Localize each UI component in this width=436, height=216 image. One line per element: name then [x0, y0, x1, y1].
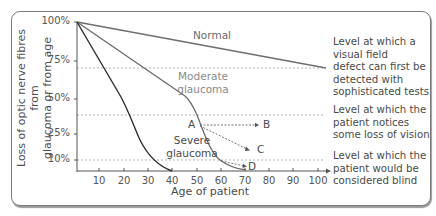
label-moderate-glaucoma: Moderate glaucoma: [168, 70, 238, 96]
x-axis-arrow-icon: [326, 169, 331, 174]
note-notice-loss: Level at which the patient notices some …: [333, 104, 433, 142]
series-severe-glaucoma: [77, 22, 172, 171]
label-point-c: C: [257, 143, 264, 156]
arrowhead-d-icon: [243, 164, 248, 168]
label-severe-glaucoma: Severe glaucoma: [162, 134, 222, 160]
label-normal: Normal: [193, 29, 231, 42]
arrowhead-b-icon: [255, 123, 259, 127]
arrowhead-c-icon: [245, 147, 250, 152]
label-point-d: D: [248, 160, 256, 173]
note-blind: Level at which the patient would be cons…: [333, 150, 433, 188]
label-point-b: B: [263, 118, 270, 131]
label-point-a: A: [188, 118, 195, 131]
note-field-defect: Level at which a visual field defect can…: [333, 36, 433, 99]
